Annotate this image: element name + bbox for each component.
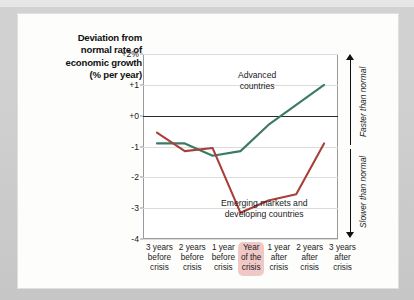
faster-than-normal-label: Faster than normal <box>358 58 368 146</box>
x-axis-label: 3 yearsaftercrisis <box>326 242 359 276</box>
x-axis-label-line: 3 years <box>146 243 173 253</box>
x-axis-label-line: crisis <box>146 263 173 273</box>
x-axis-label-line: 2 years <box>179 243 206 253</box>
annotation-emerging-markets: Emerging markets and developing countrie… <box>221 198 307 219</box>
x-axis-label-line: 2 years <box>296 243 323 253</box>
x-axis-label-line: crisis <box>212 263 235 273</box>
x-axis-label: 2 yearsaftercrisis <box>293 242 326 276</box>
y-axis-tick-label: -2 <box>131 172 139 182</box>
plot-area: +2%+1+0-1-2-3-4 Advancedcountries Emergi… <box>143 54 338 239</box>
x-axis-label-pill: 2 yearsaftercrisis <box>293 242 326 276</box>
y-axis-tick-label: +0 <box>129 111 139 121</box>
x-axis-label-line: 1 year <box>212 243 235 253</box>
x-axis-label-line: Year <box>241 243 262 253</box>
scan-background: Deviation from normal rate of economic g… <box>0 0 414 300</box>
annotation-advanced-countries: Advancedcountries <box>238 70 276 91</box>
x-axis-label-pill: 3 yearsaftercrisis <box>326 242 359 276</box>
right-axis-annotations: Faster than normal Slower than normal <box>344 54 394 239</box>
slower-arrow-shaft <box>350 149 351 232</box>
y-axis-tick-label: +2% <box>122 49 139 59</box>
y-axis-tick-label: -4 <box>131 234 139 244</box>
x-axis-label-line: before <box>212 253 235 263</box>
chart-title-line: Deviation from <box>24 32 142 44</box>
arrow-down-icon <box>346 232 354 238</box>
x-axis-label-pill: Yearof thecrisis <box>238 242 265 276</box>
annotation-line: Emerging markets and <box>221 198 307 208</box>
faster-arrow-shaft <box>350 59 351 145</box>
annotation-line: Advanced <box>238 70 276 80</box>
x-axis-label-pill: 2 yearsbeforecrisis <box>176 242 209 276</box>
x-axis-categories: 3 yearsbeforecrisis2 yearsbeforecrisis1 … <box>143 242 338 276</box>
x-axis-label-pill: 1 yearaftercrisis <box>264 242 293 276</box>
y-axis-tick-label: -1 <box>131 142 139 152</box>
x-axis-label-line: after <box>267 253 290 263</box>
series-line <box>157 85 324 156</box>
x-axis-label-line: 3 years <box>329 243 356 253</box>
x-axis-label-line: after <box>329 253 356 263</box>
x-axis-label: 2 yearsbeforecrisis <box>176 242 209 276</box>
x-axis-label-line: crisis <box>329 263 356 273</box>
x-axis-label: 1 yearaftercrisis <box>264 242 293 276</box>
y-axis-tick-label: +1 <box>129 80 139 90</box>
x-axis-label-line: before <box>146 253 173 263</box>
slower-than-normal-label: Slower than normal <box>358 150 368 234</box>
x-axis-label: 1 yearbeforecrisis <box>209 242 238 276</box>
x-axis-label-line: crisis <box>241 263 262 273</box>
x-axis-label-pill: 1 yearbeforecrisis <box>209 242 238 276</box>
x-axis-label-line: crisis <box>179 263 206 273</box>
gridline <box>143 239 338 240</box>
chart-title-line: (% per year) <box>24 69 142 81</box>
x-axis-label-line: crisis <box>296 263 323 273</box>
annotation-line: developing countries <box>225 209 304 219</box>
x-axis-label-line: 1 year <box>267 243 290 253</box>
x-axis-label: 3 yearsbeforecrisis <box>143 242 176 276</box>
x-axis-label-line: of the <box>241 253 262 263</box>
x-axis-label-pill: 3 yearsbeforecrisis <box>143 242 176 276</box>
x-axis-label-line: crisis <box>267 263 290 273</box>
x-axis-label-line: before <box>179 253 206 263</box>
annotation-line: countries <box>240 81 275 91</box>
y-axis-tick-label: -3 <box>131 203 139 213</box>
figure-card: Deviation from normal rate of economic g… <box>18 14 398 288</box>
x-axis-label-line: after <box>296 253 323 263</box>
x-axis-label-highlighted: Yearof thecrisis <box>238 242 265 276</box>
